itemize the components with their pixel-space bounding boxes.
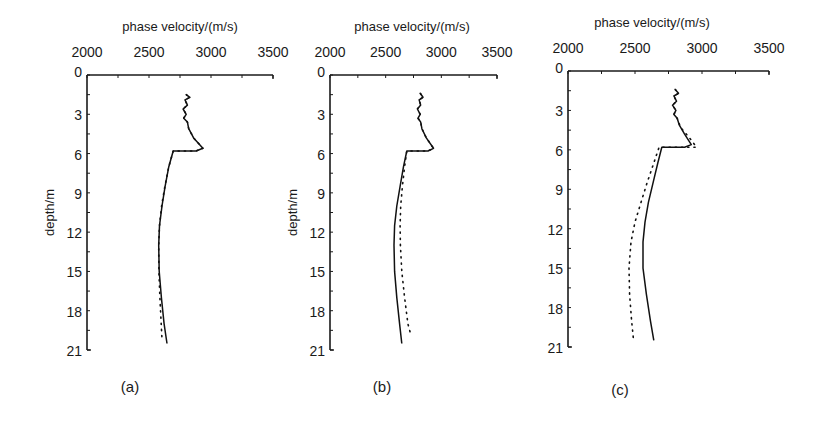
chart-panel-a: phase velocity/(m/s)20002500300035000369… <box>42 19 289 395</box>
y-tick-label: 18 <box>547 301 563 317</box>
y-tick-label: 0 <box>74 64 82 80</box>
series-dotted <box>629 89 697 341</box>
x-tick-label: 3000 <box>686 40 717 56</box>
y-tick-label: 9 <box>74 186 82 202</box>
y-tick-label: 18 <box>66 304 82 320</box>
x-tick-label: 2500 <box>370 44 401 60</box>
y-tick-label: 6 <box>317 147 325 163</box>
y-tick-label: 12 <box>66 225 82 241</box>
panel-label: (c) <box>611 381 629 398</box>
figure: phase velocity/(m/s)20002500300035000369… <box>0 0 824 436</box>
y-tick-label: 9 <box>555 182 563 198</box>
x-tick-label: 2000 <box>314 44 345 60</box>
series-solid <box>394 93 434 343</box>
y-tick-label: 0 <box>317 64 325 80</box>
x-tick-label: 3500 <box>481 44 512 60</box>
y-tick-label: 15 <box>547 261 563 277</box>
x-tick-label: 2000 <box>552 40 583 56</box>
x-tick-label: 3500 <box>753 40 784 56</box>
x-axis-title: phase velocity/(m/s) <box>354 19 470 34</box>
panel-label: (b) <box>373 378 391 395</box>
y-tick-label: 9 <box>317 186 325 202</box>
x-axis-title: phase velocity/(m/s) <box>122 19 238 34</box>
x-tick-label: 3000 <box>195 44 226 60</box>
y-tick-label: 15 <box>66 264 82 280</box>
y-tick-label: 3 <box>317 107 325 123</box>
chart-panel-c: phase velocity/(m/s)20002500300035000369… <box>547 15 784 398</box>
y-tick-label: 6 <box>74 147 82 163</box>
y-tick-label: 12 <box>547 222 563 238</box>
series-dotted <box>159 95 203 340</box>
x-tick-label: 3000 <box>426 44 457 60</box>
y-axis-title: depth/m <box>42 189 57 236</box>
y-tick-label: 15 <box>309 264 325 280</box>
y-tick-label: 21 <box>66 343 82 359</box>
y-tick-label: 0 <box>555 60 563 76</box>
x-tick-label: 2500 <box>619 40 650 56</box>
x-tick-label: 3500 <box>257 44 288 60</box>
y-tick-label: 18 <box>309 304 325 320</box>
y-tick-label: 3 <box>555 103 563 119</box>
series-solid <box>159 95 203 344</box>
panel-label: (a) <box>121 378 139 395</box>
series-dotted <box>400 93 433 334</box>
series-solid <box>643 89 691 340</box>
x-tick-label: 2000 <box>71 44 102 60</box>
y-tick-label: 12 <box>309 225 325 241</box>
y-tick-label: 6 <box>555 143 563 159</box>
y-axis-title: depth/m <box>285 189 300 236</box>
chart-panel-b: phase velocity/(m/s)20002500300035000369… <box>285 19 513 395</box>
y-tick-label: 21 <box>309 343 325 359</box>
y-tick-label: 3 <box>74 107 82 123</box>
y-tick-label: 21 <box>547 340 563 356</box>
x-tick-label: 2500 <box>133 44 164 60</box>
x-axis-title: phase velocity/(m/s) <box>594 15 710 30</box>
